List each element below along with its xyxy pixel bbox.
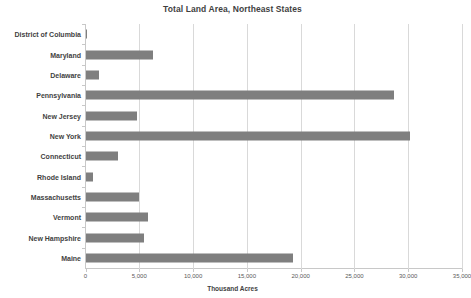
category-label: Massachusetts xyxy=(0,193,81,200)
bar xyxy=(86,30,87,39)
category-axis-tick xyxy=(82,65,85,66)
bar xyxy=(86,192,139,201)
x-axis-tick-label: 15,000 xyxy=(238,273,256,279)
category-label: District of Columbia xyxy=(0,31,81,38)
bar xyxy=(86,172,93,181)
bar xyxy=(86,50,153,59)
bar xyxy=(86,91,395,100)
bar xyxy=(86,111,138,120)
gridline xyxy=(301,24,302,269)
bar xyxy=(86,233,145,242)
x-axis-tick-label: 0 xyxy=(84,273,87,279)
x-axis-title: Thousand Acres xyxy=(0,285,465,292)
category-label: Delaware xyxy=(0,71,81,78)
category-axis-tick xyxy=(82,248,85,249)
x-axis-tick xyxy=(86,269,87,272)
category-label: New York xyxy=(0,132,81,139)
gridline xyxy=(247,24,248,269)
category-axis-line xyxy=(85,268,462,269)
x-axis-tick xyxy=(301,269,302,272)
category-axis-tick xyxy=(82,166,85,167)
gridline xyxy=(354,24,355,269)
category-label: Connecticut xyxy=(0,153,81,160)
gridline xyxy=(193,24,194,269)
gridline xyxy=(462,24,463,269)
category-label: Pennsylvania xyxy=(0,92,81,99)
x-axis-tick xyxy=(139,269,140,272)
category-label: Maryland xyxy=(0,51,81,58)
x-axis-tick-label: 30,000 xyxy=(399,273,417,279)
category-axis-tick xyxy=(82,105,85,106)
bar xyxy=(86,70,99,79)
x-axis-tick xyxy=(354,269,355,272)
x-axis-tick xyxy=(193,269,194,272)
category-axis-tick xyxy=(82,146,85,147)
bar xyxy=(86,152,119,161)
x-axis-tick xyxy=(247,269,248,272)
bar xyxy=(86,213,149,222)
bar xyxy=(86,131,411,140)
x-axis-tick xyxy=(408,269,409,272)
category-label: New Hampshire xyxy=(0,234,81,241)
x-axis-tick xyxy=(462,269,463,272)
x-axis-tick-label: 5,000 xyxy=(132,273,147,279)
x-axis-tick-label: 20,000 xyxy=(291,273,309,279)
category-axis-tick xyxy=(82,126,85,127)
x-axis-tick-label: 10,000 xyxy=(184,273,202,279)
category-axis-tick xyxy=(82,24,85,25)
category-label: Rhode Island xyxy=(0,173,81,180)
category-axis-tick xyxy=(82,207,85,208)
category-label: Vermont xyxy=(0,214,81,221)
gridline xyxy=(408,24,409,269)
category-label: New Jersey xyxy=(0,112,81,119)
category-axis-tick xyxy=(82,44,85,45)
category-label: Maine xyxy=(0,254,81,261)
bar xyxy=(86,253,293,262)
x-axis-tick-label: 35,000 xyxy=(453,273,471,279)
category-axis-tick xyxy=(82,227,85,228)
category-axis-tick xyxy=(82,85,85,86)
x-axis-tick-label: 25,000 xyxy=(345,273,363,279)
chart-title: Total Land Area, Northeast States xyxy=(0,4,465,14)
category-axis-tick xyxy=(82,187,85,188)
